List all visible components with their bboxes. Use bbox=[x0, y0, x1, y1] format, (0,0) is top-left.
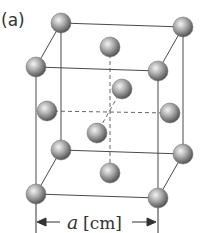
atom-sphere-icon bbox=[37, 101, 57, 121]
atom-sphere-icon bbox=[173, 17, 193, 37]
atom-sphere-icon bbox=[148, 61, 168, 81]
atom-sphere-icon bbox=[173, 144, 193, 164]
atom-sphere-icon bbox=[26, 57, 46, 77]
edge bbox=[36, 194, 158, 198]
atom-sphere-icon bbox=[26, 184, 46, 204]
edge bbox=[36, 67, 158, 71]
atom-sphere-icon bbox=[87, 123, 107, 143]
atom-sphere-icon bbox=[51, 13, 71, 33]
dimension-variable: a bbox=[67, 211, 78, 233]
panel-label: (a) bbox=[1, 10, 25, 30]
edge bbox=[61, 150, 183, 154]
arrow-left-icon bbox=[37, 218, 46, 226]
dimension-unit: [cm] bbox=[83, 213, 122, 233]
atom-sphere-icon bbox=[51, 140, 71, 160]
atom-sphere-icon bbox=[100, 163, 120, 183]
edge bbox=[61, 23, 183, 27]
atom-sphere-icon bbox=[112, 79, 132, 99]
dashed-line-horizontal bbox=[47, 111, 170, 113]
unit-cell-diagram: (a) a [cm] bbox=[0, 0, 207, 233]
atom-sphere-icon bbox=[148, 188, 168, 208]
atom-sphere-icon bbox=[160, 103, 180, 123]
arrow-right-icon bbox=[147, 218, 156, 226]
atom-sphere-icon bbox=[100, 37, 120, 57]
